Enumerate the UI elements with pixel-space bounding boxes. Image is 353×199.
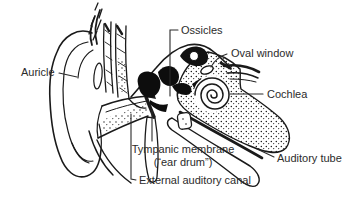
cochlea-spiral: [194, 76, 231, 113]
label-oval-window: Oval window: [231, 47, 293, 60]
label-ossicles: Ossicles: [181, 24, 223, 37]
label-cochlea: Cochlea: [267, 88, 307, 101]
label-tympanic-membrane: Tympanic membrane (“ear drum”): [124, 143, 242, 169]
label-tympanic-membrane-line1: Tympanic membrane: [124, 143, 242, 156]
hair-hatching: [89, 3, 102, 45]
auricle-shape: [50, 31, 104, 177]
semicircular-canal-shape: [180, 46, 208, 66]
label-auditory-tube: Auditory tube: [277, 152, 342, 165]
label-tympanic-membrane-line2: (“ear drum”): [124, 156, 242, 169]
label-auricle: Auricle: [21, 66, 55, 79]
label-external-auditory-canal: External auditory canal: [139, 174, 251, 187]
small-bone-detail: [177, 112, 192, 130]
leader-auricle: [59, 73, 77, 77]
ear-anatomy-diagram: Auricle Ossicles Oval window Cochlea Aud…: [0, 0, 353, 199]
